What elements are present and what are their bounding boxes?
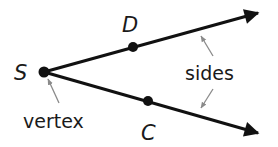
point-c: [143, 96, 153, 106]
sides-pointer-lower-arrow: [201, 89, 213, 108]
vertex-pointer-arrow: [48, 79, 59, 103]
sides-pointer-upper-arrow: [201, 36, 213, 56]
point-d: [128, 42, 138, 52]
label-d: D: [122, 13, 138, 37]
vertex-annotation: vertex: [23, 110, 84, 132]
label-c: C: [141, 121, 156, 145]
point-s: [39, 67, 50, 78]
angle-diagram: S D C vertex sides: [0, 0, 278, 147]
label-s: S: [14, 61, 27, 85]
sides-annotation: sides: [185, 62, 234, 84]
